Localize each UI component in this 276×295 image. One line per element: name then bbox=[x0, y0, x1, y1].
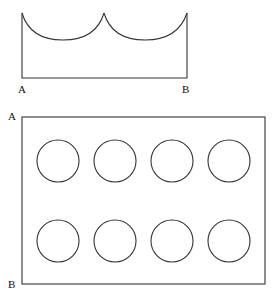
top-label-b: B bbox=[182, 83, 189, 95]
circle-1 bbox=[37, 140, 79, 182]
bottom-figure: A B bbox=[8, 110, 265, 290]
bottom-label-b: B bbox=[8, 278, 15, 290]
circle-6 bbox=[94, 220, 136, 262]
circle-8 bbox=[208, 220, 250, 262]
bottom-rectangle bbox=[22, 117, 265, 284]
top-figure: A B bbox=[18, 13, 189, 95]
bottom-label-a: A bbox=[8, 110, 16, 122]
circle-4 bbox=[208, 140, 250, 182]
top-figure-outline bbox=[22, 13, 187, 78]
circle-3 bbox=[151, 140, 193, 182]
circle-5 bbox=[37, 220, 79, 262]
left-arc bbox=[22, 13, 104, 40]
circle-7 bbox=[151, 220, 193, 262]
top-label-a: A bbox=[18, 83, 26, 95]
circle-grid bbox=[37, 140, 250, 262]
diagram: A B A B bbox=[0, 0, 276, 295]
circle-2 bbox=[94, 140, 136, 182]
right-arc bbox=[104, 13, 187, 40]
